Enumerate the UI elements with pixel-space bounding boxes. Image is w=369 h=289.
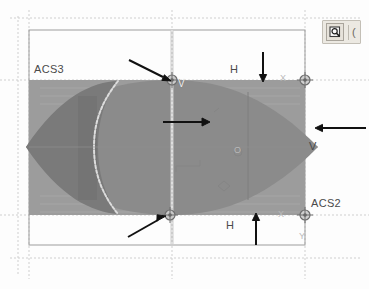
cad-viewport[interactable]: ACS3 ACS2 H H V V X X Y O xyxy=(0,0,369,289)
label-y-axis: Y xyxy=(299,232,305,241)
label-acs2: ACS2 xyxy=(311,198,341,209)
zoom-window-button[interactable] xyxy=(326,23,344,41)
label-acs3: ACS3 xyxy=(34,64,64,75)
arrow-diagonal-bottom-grip xyxy=(128,215,166,237)
label-v-right: V xyxy=(309,141,317,152)
magnifier-icon xyxy=(329,26,342,39)
label-o-marker: O xyxy=(234,146,241,155)
label-x-axis-bottom: X xyxy=(278,210,284,219)
arrow-left-right-edge xyxy=(315,124,366,131)
toolbar-fragment-text: ( xyxy=(352,27,358,38)
label-h-bottom: H xyxy=(226,220,234,231)
arrow-up-bottom xyxy=(252,213,259,245)
label-x-axis-top: X xyxy=(280,74,286,83)
floating-toolbar[interactable]: ( xyxy=(322,20,361,44)
arrow-down-top xyxy=(259,52,266,82)
toolbar-separator xyxy=(348,25,349,40)
arrow-diagonal-top-grip xyxy=(129,60,171,81)
label-h-top: H xyxy=(230,64,238,75)
label-v-grip-top: V xyxy=(178,79,185,89)
screenshot-root: ACS3 ACS2 H H V V X X Y O ( xyxy=(0,0,369,289)
